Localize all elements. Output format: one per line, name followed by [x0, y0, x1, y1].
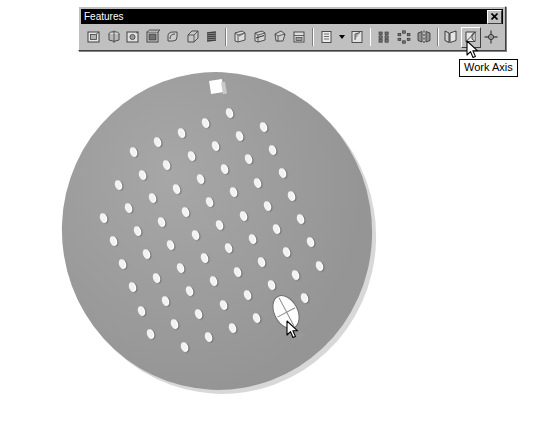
hole[interactable]	[194, 308, 204, 320]
loft-icon	[272, 29, 288, 45]
coil-icon	[319, 29, 335, 45]
hole[interactable]	[296, 213, 306, 225]
hole[interactable]	[251, 312, 261, 324]
toolbar-button-fillet[interactable]	[163, 27, 183, 48]
features-toolbar-palette[interactable]: Features	[78, 6, 506, 51]
hole[interactable]	[181, 206, 191, 218]
toolbar-button-sweep[interactable]	[290, 27, 310, 48]
hole[interactable]	[253, 177, 263, 189]
hole[interactable]	[184, 285, 194, 297]
toolbar-button-mirror[interactable]	[414, 27, 434, 48]
toolbar-button-extrude[interactable]	[84, 27, 104, 48]
toolbar-button-work-plane[interactable]	[442, 27, 462, 48]
toolbar-button-chamfer[interactable]	[183, 27, 203, 48]
hole[interactable]	[166, 239, 176, 251]
hole[interactable]	[223, 242, 233, 254]
hole[interactable]	[128, 146, 138, 158]
perforated-disc-model[interactable]	[62, 72, 384, 400]
hole[interactable]	[99, 212, 109, 224]
hole[interactable]	[262, 200, 272, 212]
sweep-icon	[291, 29, 307, 45]
hole[interactable]	[225, 107, 235, 119]
close-icon[interactable]	[487, 10, 502, 24]
toolbar-button-circular-pattern[interactable]	[394, 27, 414, 48]
hole[interactable]	[175, 262, 185, 274]
hole[interactable]	[234, 130, 244, 142]
toolbar-button-face-draft[interactable]	[230, 27, 250, 48]
hole[interactable]	[127, 281, 137, 293]
hole[interactable]	[281, 246, 291, 258]
hole[interactable]	[160, 295, 170, 307]
hole[interactable]	[247, 233, 257, 245]
hole[interactable]	[305, 236, 315, 248]
hole[interactable]	[233, 266, 243, 278]
hole[interactable]	[170, 318, 180, 330]
hole-pattern	[62, 72, 372, 390]
palette-title: Features	[84, 9, 487, 24]
cad-viewport[interactable]	[0, 0, 534, 433]
hole[interactable]	[272, 223, 282, 235]
toolbar-button-hole[interactable]	[124, 27, 144, 48]
hole[interactable]	[268, 144, 278, 156]
toolbar-button-coil[interactable]	[317, 27, 337, 48]
hole[interactable]	[151, 272, 161, 284]
hole[interactable]	[266, 279, 276, 291]
hole[interactable]	[179, 341, 189, 353]
hole[interactable]	[195, 173, 205, 185]
hole[interactable]	[147, 192, 157, 204]
hole[interactable]	[238, 210, 248, 222]
hole[interactable]	[257, 256, 267, 268]
hole[interactable]	[277, 167, 287, 179]
hole[interactable]	[186, 150, 196, 162]
hole[interactable]	[300, 293, 310, 305]
hole[interactable]	[162, 160, 172, 172]
hole[interactable]	[314, 260, 324, 272]
toolbar-button-loft[interactable]	[270, 27, 290, 48]
hole[interactable]	[123, 202, 133, 214]
shell-icon	[145, 29, 161, 45]
hole[interactable]	[199, 252, 209, 264]
hole[interactable]	[227, 322, 237, 334]
hole[interactable]	[201, 117, 211, 129]
toolbar-separator-2	[312, 28, 314, 46]
chevron-down-icon[interactable]	[337, 27, 347, 48]
work-point-axis-horizontal	[277, 307, 295, 317]
hole[interactable]	[242, 289, 252, 301]
hole[interactable]	[190, 229, 200, 241]
hole[interactable]	[258, 121, 268, 133]
hole[interactable]	[136, 305, 146, 317]
hole[interactable]	[290, 269, 300, 281]
revolve-icon	[106, 29, 122, 45]
hole[interactable]	[243, 153, 253, 165]
hole[interactable]	[146, 328, 156, 340]
toolbar-button-shell[interactable]	[143, 27, 163, 48]
hole[interactable]	[218, 299, 228, 311]
hole[interactable]	[114, 179, 124, 191]
palette-titlebar[interactable]: Features	[81, 9, 503, 24]
hole[interactable]	[209, 275, 219, 287]
hole[interactable]	[286, 190, 296, 202]
hole[interactable]	[214, 219, 224, 231]
hole[interactable]	[229, 186, 239, 198]
work-plane-icon	[443, 29, 459, 45]
hole[interactable]	[138, 169, 148, 181]
hole[interactable]	[219, 163, 229, 175]
hole[interactable]	[108, 235, 118, 247]
hole[interactable]	[203, 332, 213, 344]
hole[interactable]	[132, 225, 142, 237]
hole[interactable]	[142, 249, 152, 261]
features-toolbar-row[interactable]	[81, 24, 503, 48]
toolbar-button-rib[interactable]	[347, 27, 367, 48]
hole[interactable]	[156, 216, 166, 228]
toolbar-button-work-point[interactable]	[481, 27, 501, 48]
toolbar-button-split[interactable]	[250, 27, 270, 48]
hole[interactable]	[210, 140, 220, 152]
toolbar-button-rectangular-pattern[interactable]	[374, 27, 394, 48]
hole[interactable]	[118, 258, 128, 270]
hole[interactable]	[152, 136, 162, 148]
hole[interactable]	[205, 196, 215, 208]
toolbar-button-thread[interactable]	[203, 27, 223, 48]
hole[interactable]	[177, 127, 187, 139]
hole[interactable]	[171, 183, 181, 195]
toolbar-button-revolve[interactable]	[104, 27, 124, 48]
